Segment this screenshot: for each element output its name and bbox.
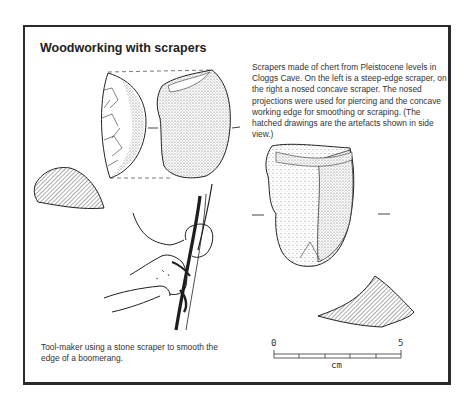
toolmaker-hands-boomerang xyxy=(104,184,213,330)
scale-bar xyxy=(274,350,401,358)
scale-start-label: 0 xyxy=(271,338,276,348)
steep-edge-scraper-face xyxy=(148,70,240,178)
scale-end-label: 5 xyxy=(398,338,403,348)
nosed-concave-scraper xyxy=(252,144,390,266)
scale-unit-label: cm xyxy=(331,360,342,370)
nosed-concave-scraper-side-view-hatched xyxy=(318,276,414,327)
steep-edge-scraper-side-view-hatched xyxy=(34,168,104,209)
